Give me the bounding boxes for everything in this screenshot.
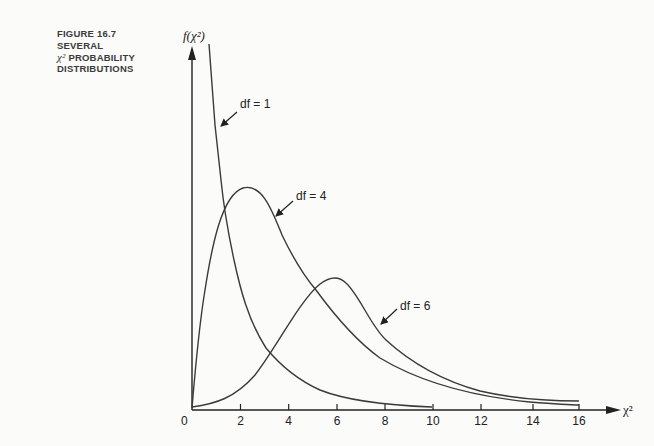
annotation-df-4: df = 4 — [296, 189, 327, 203]
curve-df-4 — [192, 187, 579, 408]
x-axis-label: χ² — [622, 402, 633, 417]
curve-df-6 — [192, 278, 579, 407]
x-tick-label: 16 — [572, 414, 586, 428]
y-axis-label: f(χ²) — [183, 28, 205, 43]
arrow-df-4-icon — [276, 201, 293, 216]
annotation-df-1: df = 1 — [240, 97, 271, 111]
x-tick-label: 2 — [237, 414, 244, 428]
x-ticks — [241, 404, 580, 410]
y-axis-arrow-icon — [188, 46, 196, 60]
x-tick-label: 14 — [526, 414, 540, 428]
arrow-df-1-icon — [221, 112, 237, 126]
chi-square-chart: 0 2 4 6 8 10 12 14 16 f(χ²) χ² df = 1 df… — [0, 0, 654, 446]
annotation-df-6: df = 6 — [400, 299, 431, 313]
x-tick-label: 4 — [285, 414, 292, 428]
x-tick-label: 8 — [382, 414, 389, 428]
arrow-df-6-icon — [381, 309, 397, 324]
x-tick-label: 10 — [426, 414, 440, 428]
x-tick-label: 12 — [474, 414, 488, 428]
x-axis-arrow-icon — [606, 406, 621, 414]
x-tick-label-0: 0 — [181, 414, 188, 428]
x-tick-label: 6 — [334, 414, 341, 428]
